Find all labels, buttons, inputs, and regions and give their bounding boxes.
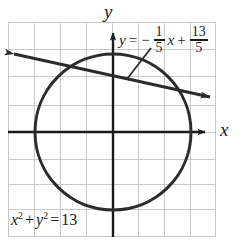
line-equation-label: y = − 1 5 x + 13 5 bbox=[119, 26, 209, 56]
circle-equation-x-term: x2 bbox=[11, 212, 23, 228]
circle-equation-value: 13 bbox=[61, 212, 77, 228]
line-equation-variable: x bbox=[168, 33, 175, 48]
intercept-numerator: 13 bbox=[190, 25, 208, 39]
circle-equation-x-exponent: 2 bbox=[18, 210, 23, 221]
slope-numerator: 1 bbox=[154, 25, 165, 39]
slope-denominator: 5 bbox=[154, 41, 165, 55]
circle-equation-plus-sign: + bbox=[24, 212, 35, 228]
circle-equation-equals: = bbox=[49, 212, 60, 228]
circle-curve bbox=[35, 54, 191, 210]
circle-equation-y-term: y2 bbox=[36, 212, 48, 228]
line-equation-slope-fraction: 1 5 bbox=[154, 25, 165, 55]
circle-equation-y-exponent: 2 bbox=[43, 210, 48, 221]
graph-figure: y x y = − 1 5 x + 13 5 x2 + y2 = 13 bbox=[0, 0, 239, 243]
circle-equation-label: x2 + y2 = 13 bbox=[11, 212, 77, 228]
secant-line bbox=[14, 54, 210, 97]
line-equation-lhs: y bbox=[119, 33, 126, 48]
line-equation-intercept-fraction: 13 5 bbox=[190, 25, 208, 55]
line-equation-equals: = bbox=[128, 33, 138, 48]
x-axis-label: x bbox=[220, 120, 228, 139]
line-equation-minus-sign: − bbox=[140, 33, 150, 48]
line-equation-plus-sign: + bbox=[176, 33, 186, 48]
y-axis-label: y bbox=[104, 2, 112, 21]
intercept-denominator: 5 bbox=[193, 41, 204, 55]
